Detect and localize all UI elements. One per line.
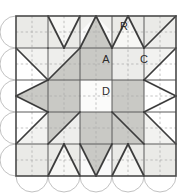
quilt-block-figure: R A C D (0, 0, 192, 194)
piece-label-c: C (140, 53, 148, 65)
piece-label-d: D (102, 85, 110, 97)
scallop-arc (144, 176, 176, 192)
scallop-arc (16, 176, 48, 192)
scallop-arc (0, 16, 16, 48)
scallop-border-bottom (16, 176, 176, 192)
scallop-arc (48, 176, 80, 192)
piece-label-a: A (102, 53, 110, 65)
scallop-arc (0, 112, 16, 144)
scallop-arc (0, 80, 16, 112)
scallop-arc (0, 48, 16, 80)
scallop-border-left (0, 16, 16, 176)
scallop-arc (0, 144, 16, 176)
scallop-arc (80, 176, 112, 192)
piece-label-r: R (120, 20, 128, 32)
scallop-arc (112, 176, 144, 192)
quilt-block-diagram: R A C D (0, 0, 192, 194)
